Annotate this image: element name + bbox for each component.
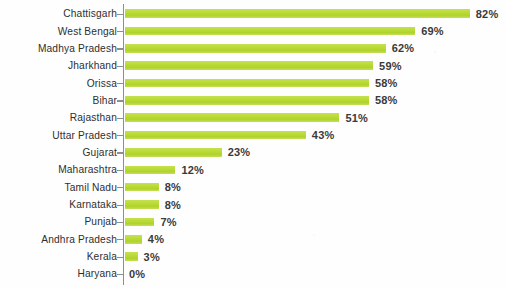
chart-row: Haryana0% [0,265,506,282]
bar [125,148,222,157]
chart-row: Karnataka8% [0,196,506,213]
bar-value-label: 23% [228,146,251,158]
bar [125,9,470,18]
category-label: Kerala [0,251,117,262]
axis-tick [117,48,123,49]
bar-value-label: 58% [375,77,398,89]
bar-container: 8% [125,196,181,213]
category-label: West Bengal [0,26,117,37]
category-label: Chattisgarh [0,8,117,19]
chart-row: Orissa58% [0,74,506,91]
category-label: Karnataka [0,199,117,210]
bar-value-label: 51% [345,112,368,124]
axis-tick [117,118,123,119]
axis-tick [117,66,123,67]
category-label: Andhra Pradesh [0,234,117,245]
chart-row: Gujarat23% [0,144,506,161]
chart-row: Bihar58% [0,92,506,109]
bar-container: 12% [125,161,204,178]
bar-value-label: 62% [392,42,415,54]
bar [125,183,159,192]
bar-container: 3% [125,248,160,265]
bar [125,44,386,53]
category-label: Maharashtra [0,164,117,175]
axis-tick [117,31,123,32]
bar-container: 59% [125,57,402,74]
bar-container: 43% [125,126,334,143]
chart-row: Jharkhand59% [0,57,506,74]
bar [125,200,159,209]
bar-container: 82% [125,5,498,22]
chart-row: Tamil Nadu8% [0,179,506,196]
axis-tick [117,14,123,15]
bar-value-label: 58% [375,94,398,106]
bar-container: 62% [125,40,414,57]
bar-value-label: 8% [165,199,181,211]
bar-value-label: 82% [476,8,499,20]
bar [125,96,369,105]
category-label: Haryana [0,268,117,279]
bar-container: 58% [125,74,398,91]
bar-container: 23% [125,144,250,161]
bar [125,61,373,70]
category-label: Gujarat [0,147,117,158]
chart-row: Uttar Pradesh43% [0,126,506,143]
bar [125,131,306,140]
bar-container: 69% [125,22,444,39]
category-label: Uttar Pradesh [0,130,117,141]
category-label: Jharkhand [0,60,117,71]
axis-tick [117,135,123,136]
bar-value-label: 69% [421,25,444,37]
bar-value-label: 0% [129,268,145,280]
bar [125,113,339,122]
category-label: Bihar [0,95,117,106]
category-label: Orissa [0,78,117,89]
axis-tick [117,152,123,153]
axis-tick [117,222,123,223]
chart-row: Andhra Pradesh4% [0,231,506,248]
bar-container: 51% [125,109,368,126]
bar [125,27,415,36]
bar-container: 58% [125,92,398,109]
axis-tick [117,257,123,258]
bar [125,252,138,261]
axis-tick [117,83,123,84]
chart-row: Rajasthan51% [0,109,506,126]
bar-chart: Chattisgarh82%West Bengal69%Madhya Prade… [0,0,506,287]
bar-container: 7% [125,213,177,230]
category-label: Rajasthan [0,112,117,123]
plot-area: Chattisgarh82%West Bengal69%Madhya Prade… [0,0,506,287]
bar-container: 4% [125,231,164,248]
axis-tick [117,205,123,206]
category-label: Punjab [0,216,117,227]
bar [125,79,369,88]
bar [125,218,154,227]
bar-value-label: 7% [160,216,176,228]
bar-value-label: 12% [181,164,204,176]
axis-tick [117,239,123,240]
bar-value-label: 3% [144,251,160,263]
bar [125,235,142,244]
bar-container: 8% [125,179,181,196]
category-label: Tamil Nadu [0,182,117,193]
bar-value-label: 4% [148,233,164,245]
category-label: Madhya Pradesh [0,43,117,54]
chart-row: Kerala3% [0,248,506,265]
chart-row: West Bengal69% [0,22,506,39]
axis-tick [117,100,123,101]
bar-container: 0% [125,265,145,282]
bar [125,166,175,175]
axis-tick [117,187,123,188]
bar-value-label: 43% [312,129,335,141]
chart-row: Maharashtra12% [0,161,506,178]
axis-tick [117,274,123,275]
chart-row: Punjab7% [0,213,506,230]
bar-value-label: 59% [379,60,402,72]
chart-row: Madhya Pradesh62% [0,40,506,57]
axis-tick [117,170,123,171]
category-axis-line [123,4,124,285]
chart-row: Chattisgarh82% [0,5,506,22]
bar-value-label: 8% [165,181,181,193]
